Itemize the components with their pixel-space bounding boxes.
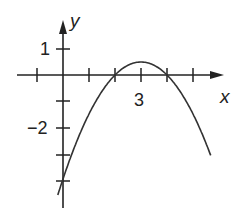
parabola-graph: y x 3 1 −2	[0, 0, 241, 218]
y-tick-label-neg2: −2	[27, 118, 48, 138]
x-tick-label-3: 3	[134, 90, 144, 110]
y-axis-label: y	[68, 10, 81, 31]
y-tick-label-1: 1	[40, 39, 50, 59]
x-axis-arrow-icon	[210, 71, 224, 79]
y-axis-arrow-icon	[59, 20, 67, 34]
x-axis-label: x	[219, 86, 231, 107]
parabola-curve	[58, 62, 211, 195]
